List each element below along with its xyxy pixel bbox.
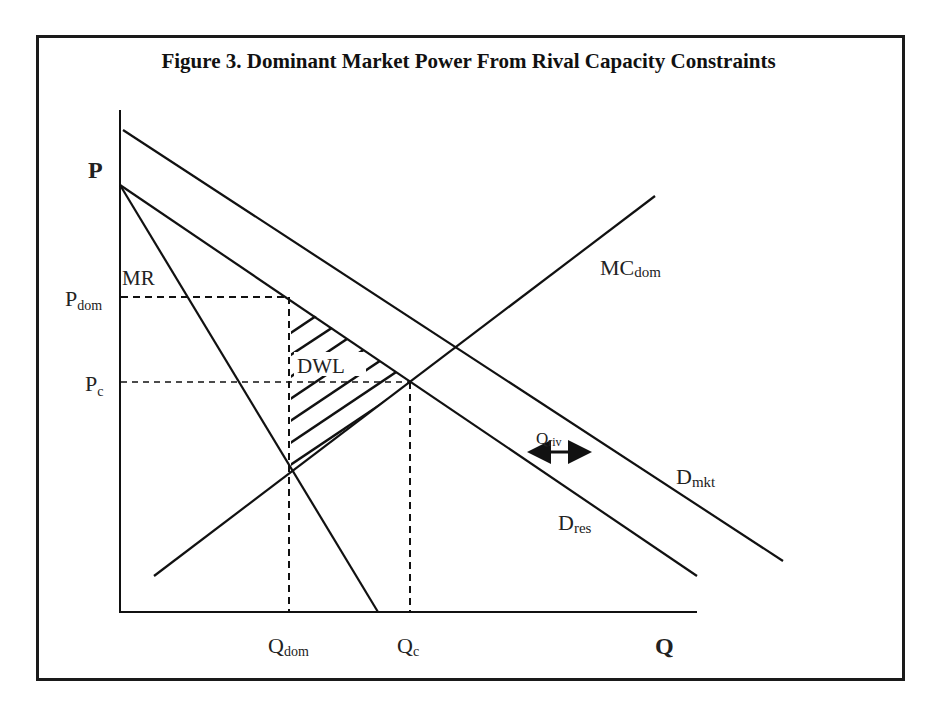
x-axis-label: Q <box>655 633 674 659</box>
q-riv-label: Qriv <box>536 429 562 449</box>
mr-curve <box>120 185 378 612</box>
p-c-label: Pc <box>85 371 103 399</box>
d-mkt-label: Dmkt <box>676 464 716 490</box>
dwl-label: DWL <box>297 354 345 378</box>
d-res-label: Dres <box>558 510 592 536</box>
y-axis-label: P <box>88 157 103 183</box>
p-dom-label: Pdom <box>65 286 102 313</box>
mr-label: MR <box>122 266 155 290</box>
d-mkt-curve <box>123 130 783 561</box>
q-dom-label: Qdom <box>268 633 309 659</box>
mc-dom-curve <box>154 196 655 576</box>
q-c-label: Qc <box>397 633 419 659</box>
mc-dom-label: MCdom <box>600 255 661 280</box>
diagram-canvas: P Q MR Pdom Pc DWL Qdom Qc MCdom Qriv Dm… <box>0 0 937 709</box>
d-res-curve <box>120 185 697 576</box>
